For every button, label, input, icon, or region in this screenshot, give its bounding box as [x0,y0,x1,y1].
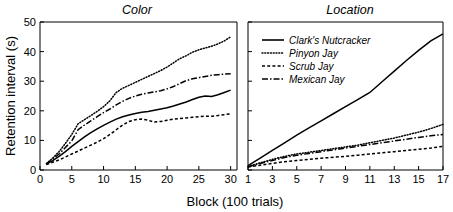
x-tick-label: 0 [37,173,43,185]
x-tick-label: 3 [269,173,275,185]
y-axis-title: Retention interval (s) [3,36,18,156]
x-axis-title: Block (100 trials) [187,194,284,209]
x-tick-label: 9 [342,173,348,185]
series-line-scrub-jay [46,114,230,165]
x-tick-label: 1 [245,173,251,185]
series-line-mexican-jay [46,74,230,164]
series-line-pinyon-jay [248,124,443,166]
figure-container: Retention interval (s) Block (100 trials… [0,0,453,212]
x-tick-label: 5 [294,173,300,185]
series-line-mexican-jay [248,134,443,166]
x-tick-label: 10 [97,173,109,185]
x-tick-label: 5 [69,173,75,185]
panel-location: 1357911131517 [245,22,449,185]
y-tick-label: 30 [24,75,36,87]
x-tick-label: 15 [129,173,141,185]
legend-label-pinyon-jay: Pinyon Jay [289,48,339,59]
series-line-clark-s-nutcracker [46,90,230,164]
chart-legend: Clark's NutcrackerPinyon JayScrub JayMex… [262,35,371,85]
panel-color: 01020304050051015202530 [24,16,237,185]
retention-interval-chart: Retention interval (s) Block (100 trials… [0,0,453,212]
legend-label-clark-s-nutcracker: Clark's Nutcracker [289,35,371,46]
y-tick-label: 0 [30,164,36,176]
y-tick-label: 20 [24,105,36,117]
y-tick-label: 50 [24,16,36,28]
x-tick-label: 17 [437,173,449,185]
panel-title-color: Color [122,3,153,17]
legend-label-scrub-jay: Scrub Jay [289,61,334,72]
x-tick-label: 20 [161,173,173,185]
x-tick-label: 11 [364,173,375,185]
x-tick-label: 15 [413,173,425,185]
x-tick-label: 7 [318,173,324,185]
legend-label-mexican-jay: Mexican Jay [289,74,346,85]
y-tick-label: 10 [24,134,36,146]
x-tick-label: 13 [388,173,400,185]
x-tick-label: 30 [225,173,237,185]
panel-title-location: Location [326,3,373,17]
y-tick-label: 40 [24,46,36,58]
x-tick-label: 25 [193,173,205,185]
series-line-scrub-jay [248,146,443,167]
